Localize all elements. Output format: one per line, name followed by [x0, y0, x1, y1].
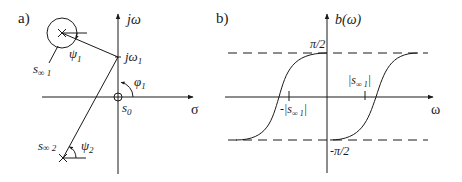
- angle-psi2-label: ψ2: [81, 138, 94, 155]
- panel-a-label: a): [18, 10, 30, 27]
- tick-pos-label: |s∞ 1|: [348, 73, 371, 89]
- real-axis-label: σ: [191, 102, 199, 117]
- jw1-label: jω1: [123, 49, 142, 66]
- angle-phi1-label: φ1: [134, 74, 146, 91]
- pole2-label: s∞ 2: [38, 138, 57, 153]
- panel-a: a) jω σ s0 jω1 φ1 ψ1: [18, 10, 199, 174]
- vector-pole2-to-jw1: [63, 57, 118, 158]
- angle-psi1-label: ψ1: [69, 46, 82, 64]
- panel-b: b) b(ω) ω π/2 -π/2 -|s∞ 1| |s∞ 1|: [216, 10, 440, 173]
- lower-level-label: -π/2: [330, 144, 349, 158]
- angle-psi1-arc: [76, 33, 77, 39]
- b-axis-label: b(ω): [335, 12, 362, 28]
- pole1-leader-line: [49, 46, 58, 63]
- tick-neg-label: -|s∞ 1|: [280, 102, 307, 118]
- upper-level-label: π/2: [310, 37, 325, 51]
- origin-label: s0: [122, 100, 132, 117]
- angle-psi2-arc: [69, 147, 76, 158]
- omega-axis-label: ω: [431, 102, 440, 117]
- figure: a) jω σ s0 jω1 φ1 ψ1: [0, 0, 462, 182]
- angle-phi1-arc: [121, 82, 133, 97]
- imaginary-axis-label: jω: [125, 12, 141, 27]
- panel-b-label: b): [216, 10, 229, 27]
- pole1-label: s∞ 1: [33, 61, 51, 78]
